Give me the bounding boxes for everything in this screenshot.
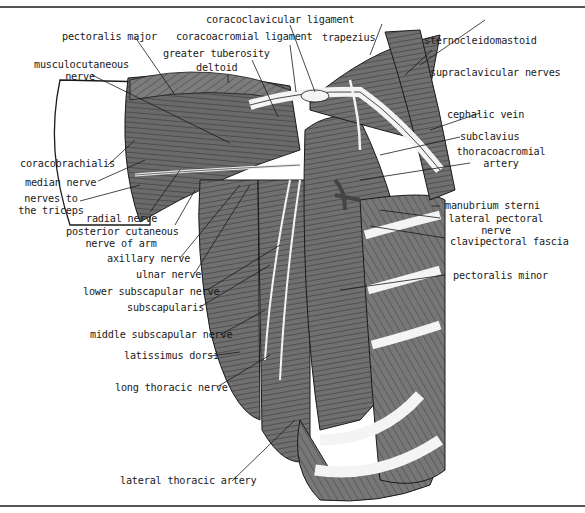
label-lateral-thoracic-artery: lateral thoracic artery (120, 475, 256, 487)
label-middle-subscapular-nerve: middle subscapular nerve (90, 329, 232, 341)
label-greater-tuberosity: greater tuberosity (163, 48, 270, 60)
label-axillary-nerve: axillary nerve (107, 253, 190, 265)
label-lateral-pectoral-nerve-line1: lateral pectoral (448, 213, 544, 225)
label-nerves-to-triceps-line2: the triceps (18, 205, 84, 217)
label-subscapularis: subscapularis (127, 302, 204, 314)
label-nerves-to-triceps-line1: nerves to (18, 193, 84, 205)
label-musculocutaneous-nerve-line2: nerve (34, 71, 126, 83)
label-long-thoracic-nerve: long thoracic nerve (115, 382, 228, 394)
label-coracoclavicular-ligament: coracoclavicular ligament (206, 14, 354, 26)
label-pectoralis-major: pectoralis major (62, 31, 157, 43)
label-deltoid: deltoid (196, 62, 238, 74)
label-posterior-cutaneous-nerve-line1: posterior cutaneous (66, 226, 176, 238)
label-median-nerve: median nerve (25, 177, 96, 189)
label-coracoacromial-ligament: coracoacromial ligament (176, 31, 312, 43)
label-supraclavicular-nerves: supraclavicular nerves (430, 67, 561, 79)
label-posterior-cutaneous-nerve-line2: nerve of arm (66, 238, 176, 250)
label-lower-subscapular-nerve: lower subscapular nerve (83, 286, 219, 298)
label-thoracoacromial-artery-line2: artery (446, 158, 556, 170)
label-coracobrachialis: coracobrachialis (20, 158, 115, 170)
label-thoracoacromial-artery-line1: thoracoacromial (446, 146, 556, 158)
label-cephalic-vein: cephalic vein (447, 109, 524, 121)
label-sternocleidomastoid: sternocleidomastoid (424, 35, 537, 47)
label-pectoralis-minor: pectoralis minor (453, 270, 548, 282)
label-ulnar-nerve: ulnar nerve (136, 269, 201, 281)
label-radial-nerve: radial nerve (86, 213, 157, 225)
label-manubrium-sterni: manubrium sterni (445, 200, 540, 212)
label-latissimus-dorsi: latissimus dorsi (124, 350, 219, 362)
label-subclavius: subclavius (460, 131, 519, 143)
label-trapezius: trapezius (322, 32, 375, 44)
label-musculocutaneous-nerve-line1: musculocutaneous (34, 59, 126, 71)
label-clavipectoral-fascia: clavipectoral fascia (450, 236, 569, 248)
